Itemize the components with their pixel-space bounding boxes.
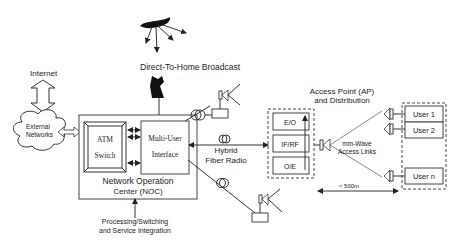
atm-label-1: ATM <box>97 135 113 144</box>
fiber-coil-icon <box>217 179 229 188</box>
antenna-lower-icon <box>259 189 282 212</box>
distance-label: < 500m <box>339 183 359 189</box>
processing-label-1: Processing/Switching <box>102 218 169 226</box>
user1-label: User 1 <box>413 110 435 119</box>
satellite-icon <box>140 18 186 52</box>
remote-unit-lower <box>252 213 268 222</box>
internet-bidirectional-arrow <box>31 80 55 112</box>
internet-label: Internet <box>30 69 58 78</box>
dish-antenna-icon <box>150 76 164 98</box>
hfr-label-2: Fiber Radio <box>205 156 247 165</box>
noc-label-1: Network Operation <box>103 176 174 186</box>
mmwave-label-2: Access Links <box>338 148 377 155</box>
mmwave-label-1: mm-Wave <box>342 140 372 147</box>
usern-label: User n <box>413 172 435 181</box>
user1-antenna-icon <box>384 108 405 120</box>
user2-label: User 2 <box>413 126 435 135</box>
atm-switch-box <box>84 122 126 172</box>
multi-user-interface-box <box>141 121 189 174</box>
antenna-upper-icon <box>219 84 240 105</box>
oe-label: O/E <box>284 163 296 170</box>
user2-antenna-icon <box>384 123 405 135</box>
ap-label-2: and Distribution <box>314 96 370 105</box>
noc-label-2: Center (NOC) <box>113 187 163 196</box>
mui-label-1: Multi-User <box>148 134 182 143</box>
atm-label-2: Switch <box>95 151 116 160</box>
ifrf-label: IF/RF <box>281 141 299 148</box>
hfr-label-1: Hybrid <box>214 146 237 155</box>
ap-label-1: Access Point (AP) <box>310 87 375 96</box>
mui-label-2: Interface <box>152 150 179 159</box>
fiber-coil-icon <box>219 135 230 143</box>
eo-label: E/O <box>284 119 297 126</box>
ap-antenna-icon <box>320 139 330 151</box>
dth-broadcast-label: Direct-To-Home Broadcast <box>140 62 241 72</box>
processing-label-2: and Service Integration <box>99 227 171 235</box>
external-networks-label-1: External <box>26 123 50 130</box>
network-diagram: Direct-To-Home Broadcast Internet Extern… <box>0 0 459 243</box>
external-networks-label-2: Networks <box>26 131 54 138</box>
remote-unit-upper <box>212 109 228 118</box>
